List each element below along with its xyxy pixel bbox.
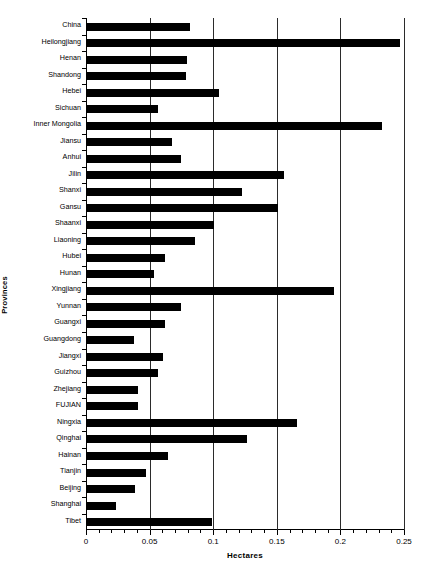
y-axis-category-label: Shandong (48, 71, 81, 79)
bar (87, 72, 186, 80)
bar-row: Hunan (86, 266, 404, 283)
bar (87, 155, 181, 163)
y-axis-category-label: Beijing (59, 484, 81, 492)
bar-row: Liaoning (86, 233, 404, 250)
x-axis-tick-label: 0 (84, 537, 88, 546)
y-axis-category-label: Liaoning (54, 236, 81, 244)
bar-row: Anhui (86, 150, 404, 167)
bar-row: Hainan (86, 447, 404, 464)
y-axis-category-label: Hubei (62, 252, 81, 260)
y-axis-category-label: Ningxia (57, 418, 81, 426)
bar (87, 237, 195, 245)
x-axis-major-tick (150, 530, 151, 535)
bar (87, 386, 138, 394)
bar (87, 56, 187, 64)
y-axis-category-label: Hainan (58, 451, 81, 459)
plot-area: 00.050.10.150.20.25 ChinaHeilongjiangHen… (86, 18, 404, 530)
bar-row: Qinghai (86, 431, 404, 448)
x-axis-tick-label: 0.05 (142, 537, 158, 546)
y-axis-category-label: Zhejiang (53, 385, 81, 393)
x-axis-major-tick (404, 530, 405, 535)
y-axis-tick (82, 51, 86, 52)
bar-row: Beijing (86, 480, 404, 497)
y-axis-tick (82, 200, 86, 201)
bar (87, 122, 382, 130)
bar-row: Jiangxi (86, 348, 404, 365)
bar (87, 485, 135, 493)
y-axis-category-label: Guangxi (54, 318, 81, 326)
y-axis-category-label: China (62, 21, 81, 29)
y-axis-category-label: Yunnan (57, 302, 81, 310)
x-axis-tick-label: 0.1 (208, 537, 219, 546)
bar-row: Jiansu (86, 134, 404, 151)
y-axis-tick (82, 266, 86, 267)
bar-row: Hubei (86, 249, 404, 266)
bar-row: Heilongjiang (86, 35, 404, 52)
y-axis-tick (82, 167, 86, 168)
y-axis-category-label: Hebei (62, 87, 81, 95)
y-axis-category-label: Tianjin (60, 467, 81, 475)
bar (87, 105, 158, 113)
y-axis-tick (82, 134, 86, 135)
y-axis-tick (82, 398, 86, 399)
bar-row: Ningxia (86, 414, 404, 431)
y-axis-category-label: Anhui (63, 153, 81, 161)
y-axis-tick (82, 35, 86, 36)
y-axis-category-label: Sichuan (55, 104, 81, 112)
y-axis-category-label: Jiangxi (59, 352, 81, 360)
bar-row: Guizhou (86, 365, 404, 382)
x-axis-tick-label: 0.25 (396, 537, 412, 546)
bar (87, 303, 181, 311)
y-axis-category-label: Jiansu (60, 137, 81, 145)
bar (87, 336, 134, 344)
y-axis-tick (82, 431, 86, 432)
y-axis-tick (82, 101, 86, 102)
x-axis-major-tick (213, 530, 214, 535)
y-axis-tick (82, 349, 86, 350)
x-axis-title: Hectares (86, 551, 404, 560)
y-axis-tick (82, 332, 86, 333)
y-axis-tick (82, 415, 86, 416)
bar-row: FUJIAN (86, 398, 404, 415)
y-axis-category-label: Jilin (69, 170, 81, 178)
bar (87, 204, 278, 212)
y-axis-tick (82, 382, 86, 383)
bar-row: Gansu (86, 200, 404, 217)
y-axis-tick (82, 497, 86, 498)
y-axis-tick (82, 514, 86, 515)
bar (87, 320, 165, 328)
y-axis-category-label: Guizhou (54, 368, 81, 376)
bar-row: Guangdong (86, 332, 404, 349)
bar (87, 469, 146, 477)
bar-row: Shaanxi (86, 216, 404, 233)
y-axis-category-label: Hunan (60, 269, 81, 277)
y-axis-tick (82, 150, 86, 151)
y-axis-category-label: Shanxi (59, 186, 81, 194)
bar-row: Xingjiang (86, 282, 404, 299)
gridline-0.25 (404, 18, 405, 530)
y-axis-tick (82, 299, 86, 300)
bar (87, 221, 214, 229)
bar (87, 287, 334, 295)
bar (87, 369, 158, 377)
bar (87, 171, 284, 179)
y-axis-tick (82, 18, 86, 19)
y-axis-category-label: Xingjiang (51, 285, 81, 293)
y-axis-tick (82, 448, 86, 449)
bar-row: Guangxi (86, 315, 404, 332)
bar-row: Yunnan (86, 299, 404, 316)
bar (87, 518, 212, 526)
bar-row: Hebei (86, 84, 404, 101)
y-axis-tick (82, 315, 86, 316)
bar (87, 502, 116, 510)
bar-row: Henan (86, 51, 404, 68)
bar (87, 188, 242, 196)
y-axis-category-label: Shanghai (51, 500, 81, 508)
y-axis-category-label: Shaanxi (55, 219, 81, 227)
y-axis-category-label: Gansu (60, 203, 81, 211)
x-axis-major-tick (277, 530, 278, 535)
x-axis-major-tick (340, 530, 341, 535)
y-axis-tick (82, 233, 86, 234)
y-axis-tick (82, 481, 86, 482)
bar-row: Inner Mongolia (86, 117, 404, 134)
